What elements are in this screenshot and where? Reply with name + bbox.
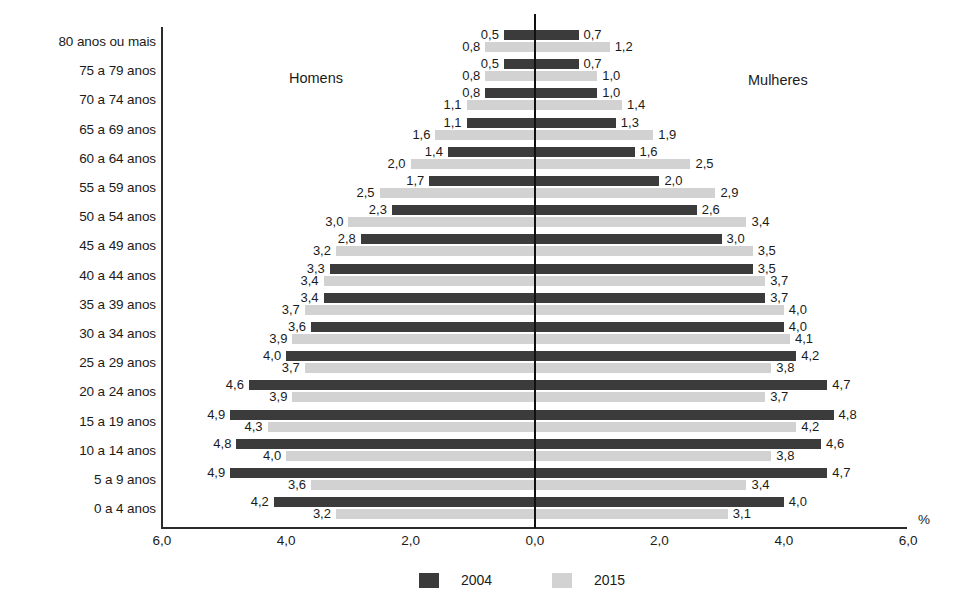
- bar-value-left-2004: 4,9: [207, 466, 225, 479]
- bar-value-right-2004: 4,8: [839, 408, 857, 421]
- bar-value-right-2004: 4,7: [832, 466, 850, 479]
- bar-2015: [485, 71, 597, 81]
- bar-group: 3,63,94,04,1: [0, 322, 961, 346]
- bar-value-left-2004: 3,4: [300, 291, 318, 304]
- bar-value-left-2004: 4,0: [263, 349, 281, 362]
- bar-2015: [305, 363, 772, 373]
- bar-value-left-2015: 3,9: [269, 390, 287, 403]
- bar-2004: [504, 59, 579, 69]
- bar-value-right-2004: 4,2: [801, 349, 819, 362]
- bar-value-right-2015: 3,4: [751, 478, 769, 491]
- bar-value-left-2004: 2,8: [338, 232, 356, 245]
- bar-2004: [286, 351, 796, 361]
- population-pyramid-chart: Homens Mulheres % 80 anos ou mais75 a 79…: [0, 0, 961, 613]
- bar-value-right-2004: 1,3: [621, 116, 639, 129]
- bar-value-right-2004: 4,0: [789, 495, 807, 508]
- bar-value-left-2015: 4,0: [263, 449, 281, 462]
- bar-2015: [305, 305, 784, 315]
- bar-value-left-2004: 0,5: [481, 28, 499, 41]
- bar-2004: [311, 322, 784, 332]
- bar-2015: [311, 480, 746, 490]
- bar-value-left-2015: 0,8: [462, 69, 480, 82]
- bar-value-right-2004: 0,7: [584, 57, 602, 70]
- bar-group: 1,11,61,31,9: [0, 118, 961, 142]
- bar-value-left-2015: 1,6: [412, 128, 430, 141]
- bar-value-right-2004: 1,6: [640, 145, 658, 158]
- bar-value-left-2015: 0,8: [462, 40, 480, 53]
- bar-2004: [392, 205, 697, 215]
- bar-group: 1,42,01,62,5: [0, 147, 961, 171]
- bar-group: 4,94,34,84,2: [0, 410, 961, 434]
- bar-2015: [336, 509, 728, 519]
- bar-2004: [485, 88, 597, 98]
- bar-group: 0,50,80,71,2: [0, 30, 961, 54]
- bar-2015: [324, 276, 766, 286]
- bar-value-left-2004: 0,8: [462, 86, 480, 99]
- bar-2004: [467, 118, 616, 128]
- bar-2004: [361, 234, 722, 244]
- bar-value-left-2015: 4,3: [244, 420, 262, 433]
- bar-value-right-2004: 2,6: [702, 203, 720, 216]
- bar-2015: [380, 188, 716, 198]
- bar-2004: [504, 30, 579, 40]
- bar-group: 4,84,04,63,8: [0, 439, 961, 463]
- bar-value-left-2004: 4,2: [251, 495, 269, 508]
- bar-value-right-2015: 1,4: [627, 98, 645, 111]
- bar-value-right-2015: 3,1: [733, 507, 751, 520]
- bar-value-right-2015: 3,7: [770, 390, 788, 403]
- bar-2015: [435, 130, 653, 140]
- bar-2015: [336, 246, 753, 256]
- legend-label-2004: 2004: [461, 571, 492, 589]
- bar-value-left-2004: 3,6: [288, 320, 306, 333]
- bar-value-left-2004: 4,6: [226, 378, 244, 391]
- bar-2015: [467, 100, 623, 110]
- bar-value-right-2004: 4,7: [832, 378, 850, 391]
- bar-value-left-2004: 1,4: [425, 145, 443, 158]
- x-tick-label: 6,0: [152, 533, 171, 548]
- bar-value-right-2015: 3,5: [758, 244, 776, 257]
- bar-value-right-2004: 1,0: [602, 86, 620, 99]
- bar-group: 0,50,80,71,0: [0, 59, 961, 83]
- bar-value-left-2015: 3,2: [313, 507, 331, 520]
- bar-2004: [249, 380, 827, 390]
- bar-value-right-2004: 3,0: [727, 232, 745, 245]
- bar-value-right-2015: 4,1: [795, 332, 813, 345]
- bar-value-left-2004: 1,7: [406, 174, 424, 187]
- bar-value-right-2015: 2,5: [696, 157, 714, 170]
- bar-group: 4,63,94,73,7: [0, 380, 961, 404]
- bar-2015: [292, 334, 790, 344]
- bar-value-right-2015: 3,8: [776, 361, 794, 374]
- bar-2004: [230, 410, 833, 420]
- bar-2004: [429, 176, 659, 186]
- center-zero-line: [534, 14, 536, 528]
- x-tick-label: 6,0: [899, 533, 918, 548]
- bar-value-left-2015: 3,0: [325, 215, 343, 228]
- bar-2004: [230, 468, 827, 478]
- bar-group: 2,33,02,63,4: [0, 205, 961, 229]
- bar-value-right-2015: 3,7: [770, 274, 788, 287]
- bar-2015: [411, 159, 691, 169]
- bar-value-left-2004: 4,9: [207, 408, 225, 421]
- bar-2004: [448, 147, 635, 157]
- bar-value-right-2015: 4,0: [789, 303, 807, 316]
- bar-value-right-2015: 1,0: [602, 69, 620, 82]
- bar-value-right-2015: 2,9: [720, 186, 738, 199]
- bar-value-right-2004: 2,0: [664, 174, 682, 187]
- bar-value-left-2015: 3,9: [269, 332, 287, 345]
- bar-value-left-2015: 2,0: [388, 157, 406, 170]
- legend-swatch-2015-icon: [552, 573, 572, 588]
- bar-value-left-2015: 3,6: [288, 478, 306, 491]
- x-tick-label: 2,0: [650, 533, 669, 548]
- bar-value-right-2015: 3,8: [776, 449, 794, 462]
- bar-value-left-2004: 2,3: [369, 203, 387, 216]
- bar-value-left-2004: 1,1: [444, 116, 462, 129]
- bar-value-left-2015: 1,1: [444, 98, 462, 111]
- bar-value-left-2004: 0,5: [481, 57, 499, 70]
- legend-swatch-2004-icon: [419, 573, 439, 588]
- bar-value-right-2015: 3,4: [751, 215, 769, 228]
- legend-label-2015: 2015: [594, 571, 625, 589]
- bar-value-right-2015: 1,2: [615, 40, 633, 53]
- chart-legend: 2004 2015: [0, 571, 961, 593]
- bar-2015: [268, 422, 797, 432]
- bar-value-right-2004: 4,6: [826, 437, 844, 450]
